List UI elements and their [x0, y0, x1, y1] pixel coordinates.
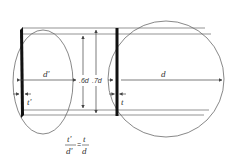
left-diameter-label: d' — [43, 69, 51, 79]
svg-text:=: = — [77, 141, 81, 148]
left-wall-bar — [20, 27, 24, 118]
svg-text:d: d — [82, 146, 87, 156]
dim-label-7d: .7d — [92, 77, 103, 84]
right-circle — [108, 21, 224, 137]
right-wall-bar — [116, 28, 119, 116]
svg-text:d': d' — [66, 146, 74, 156]
right-diameter-label: d — [161, 69, 166, 79]
proportion-formula: t' d' = t d — [65, 134, 89, 156]
right-thickness-label: t — [121, 97, 124, 107]
svg-text:t': t' — [67, 134, 73, 144]
left-thickness-label: t' — [27, 97, 33, 107]
dim-label-6d: .6d — [79, 77, 90, 84]
proportion-diagram: d' d t' t .6d .7d t' d' = t d — [0, 0, 232, 161]
svg-text:t: t — [83, 134, 86, 144]
